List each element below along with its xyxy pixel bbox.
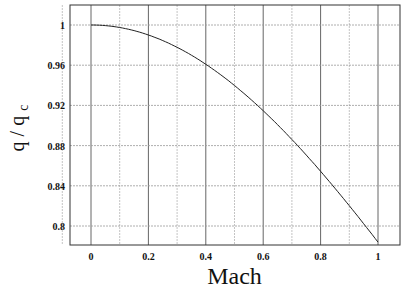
x-tick-label: 0.8 <box>314 251 327 262</box>
x-tick-label: 1 <box>376 251 381 262</box>
y-tick-label: 0.88 <box>48 141 66 152</box>
line-chart: 00.20.40.60.810.80.840.880.920.961Machq … <box>0 0 406 293</box>
y-axis-title: q / q c <box>6 105 31 152</box>
x-tick-label: 0 <box>89 251 94 262</box>
x-axis-title: Mach <box>207 263 262 289</box>
y-tick-label: 1 <box>60 20 65 31</box>
x-tick-label: 0.2 <box>142 251 155 262</box>
chart: 00.20.40.60.810.80.840.880.920.961Machq … <box>0 0 406 293</box>
y-tick-label: 0.8 <box>53 221 66 232</box>
x-tick-label: 0.4 <box>200 251 213 262</box>
y-tick-label: 0.92 <box>48 100 66 111</box>
y-tick-label: 0.84 <box>48 181 66 192</box>
y-tick-label: 0.96 <box>48 60 66 71</box>
x-tick-label: 0.6 <box>257 251 270 262</box>
